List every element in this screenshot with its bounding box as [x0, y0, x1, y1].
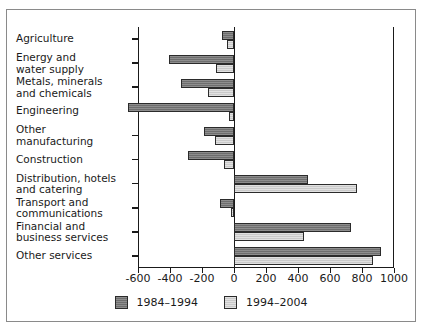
category-label-6-line-1: and catering — [16, 184, 134, 196]
category-label-1: Energy andwater supply — [16, 52, 134, 75]
category-label-9: Other services — [16, 250, 134, 262]
x-tick-1000 — [394, 268, 395, 273]
category-label-8-line-0: Financial and — [16, 220, 134, 232]
category-label-4-line-1: manufacturing — [16, 135, 134, 147]
category-label-0-line-0: Agriculture — [16, 33, 134, 45]
bar-cat-1-series-1 — [216, 64, 234, 73]
category-label-6: Distribution, hotelsand catering — [16, 172, 134, 195]
x-tick--600 — [138, 268, 139, 273]
chart-figure: AgricultureEnergy andwater supplyMetals,… — [0, 0, 422, 331]
series-1-swatch-icon — [224, 296, 237, 309]
bar-cat-4-series-1 — [215, 136, 234, 145]
category-tick-8 — [132, 231, 139, 233]
x-tick-label-200: 200 — [256, 273, 277, 284]
category-label-4-line-0: Other — [16, 124, 134, 136]
category-tick-6 — [132, 183, 139, 185]
category-label-1-line-1: water supply — [16, 63, 134, 75]
category-tick-7 — [132, 207, 139, 209]
category-label-6-line-0: Distribution, hotels — [16, 172, 134, 184]
category-label-8-line-1: business services — [16, 232, 134, 244]
x-tick--400 — [170, 268, 171, 273]
x-tick-label--200: -200 — [190, 273, 215, 284]
bar-cat-8-series-1 — [234, 232, 304, 241]
bar-cat-9-series-0 — [234, 247, 381, 256]
x-tick-label--400: -400 — [158, 273, 183, 284]
bar-cat-7-series-1 — [231, 208, 234, 217]
category-tick-9 — [132, 255, 139, 257]
x-tick-400 — [298, 268, 299, 273]
category-label-3-line-0: Engineering — [16, 106, 134, 118]
x-tick-0 — [234, 268, 235, 273]
category-tick-5 — [132, 159, 139, 161]
bar-cat-3-series-1 — [229, 112, 234, 121]
category-label-7: Transport andcommunications — [16, 196, 134, 219]
x-tick-label-600: 600 — [320, 273, 341, 284]
bar-cat-1-series-0 — [169, 55, 234, 64]
bar-cat-6-series-0 — [234, 175, 308, 184]
bar-cat-7-series-0 — [220, 199, 234, 208]
category-label-0: Agriculture — [16, 33, 134, 45]
x-tick-label-800: 800 — [352, 273, 373, 284]
bar-cat-8-series-0 — [234, 223, 351, 232]
bar-cat-0-series-1 — [227, 40, 234, 49]
category-label-7-line-1: communications — [16, 208, 134, 220]
plot-right-spine — [393, 27, 394, 268]
x-tick-600 — [330, 268, 331, 273]
bar-cat-0-series-0 — [222, 31, 234, 40]
x-tick-800 — [362, 268, 363, 273]
bar-cat-4-series-0 — [204, 127, 234, 136]
category-label-2: Metals, mineralsand chemicals — [16, 76, 134, 99]
category-tick-0 — [132, 38, 139, 40]
x-tick-200 — [266, 268, 267, 273]
bar-cat-6-series-1 — [234, 184, 357, 193]
category-label-4: Othermanufacturing — [16, 124, 134, 147]
category-label-5: Construction — [16, 154, 134, 166]
category-label-1-line-0: Energy and — [16, 52, 134, 64]
bar-cat-2-series-1 — [208, 88, 234, 97]
category-tick-1 — [132, 62, 139, 64]
category-label-5-line-0: Construction — [16, 154, 134, 166]
category-tick-2 — [132, 86, 139, 88]
x-tick-label-0: 0 — [231, 273, 238, 284]
series-0-swatch-icon — [115, 296, 128, 309]
bar-cat-2-series-0 — [181, 79, 234, 88]
legend-item-series-0: 1984–1994 — [115, 296, 199, 309]
chart-legend: 1984–1994 1994–2004 — [0, 296, 422, 309]
x-tick-label-1000: 1000 — [380, 273, 408, 284]
bar-cat-5-series-1 — [224, 160, 234, 169]
bar-cat-3-series-0 — [128, 103, 234, 112]
category-label-7-line-0: Transport and — [16, 196, 134, 208]
category-label-2-line-1: and chemicals — [16, 87, 134, 99]
bar-cat-9-series-1 — [234, 256, 373, 265]
x-tick--200 — [202, 268, 203, 273]
category-label-3: Engineering — [16, 106, 134, 118]
legend-label-series-0: 1984–1994 — [137, 296, 199, 309]
x-tick-label--600: -600 — [126, 273, 151, 284]
legend-label-series-1: 1994–2004 — [246, 296, 308, 309]
category-label-2-line-0: Metals, minerals — [16, 76, 134, 88]
plot-area — [138, 27, 394, 268]
category-label-9-line-0: Other services — [16, 250, 134, 262]
x-tick-label-400: 400 — [288, 273, 309, 284]
legend-item-series-1: 1994–2004 — [224, 296, 308, 309]
category-label-8: Financial andbusiness services — [16, 220, 134, 243]
category-tick-4 — [132, 135, 139, 137]
bar-cat-5-series-0 — [188, 151, 234, 160]
